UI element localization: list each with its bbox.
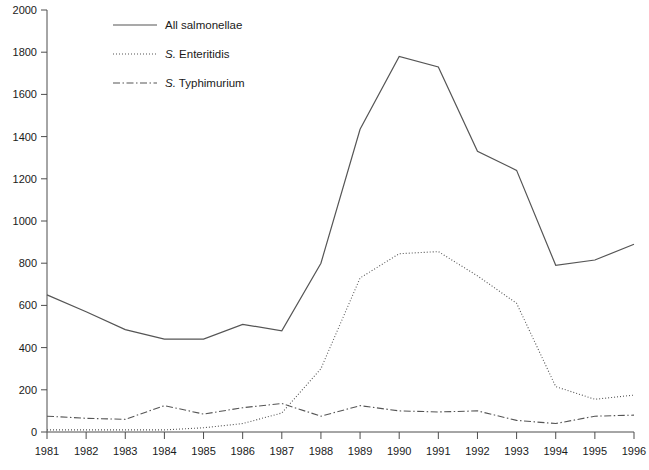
y-tick-label: 0 <box>31 426 37 438</box>
x-tick-label: 1989 <box>348 445 372 457</box>
x-tick-label: 1987 <box>270 445 294 457</box>
chart-legend: All salmonellaeS. EnteritidisS. Typhimur… <box>113 19 245 89</box>
x-tick-label: 1982 <box>74 445 98 457</box>
x-tick-label: 1994 <box>543 445 567 457</box>
y-tick-label: 400 <box>19 342 37 354</box>
y-tick-label: 1000 <box>13 215 37 227</box>
x-tick-label: 1995 <box>583 445 607 457</box>
y-tick-label: 600 <box>19 299 37 311</box>
x-tick-label: 1988 <box>309 445 333 457</box>
legend-label: All salmonellae <box>165 19 242 31</box>
legend-label: S. Typhimurium <box>165 77 245 89</box>
y-axis-label-group: 0200400600800100012001400160018002000 <box>13 4 37 438</box>
x-tick-label: 1990 <box>387 445 411 457</box>
x-tick-label: 1991 <box>426 445 450 457</box>
x-tick-label: 1983 <box>113 445 137 457</box>
y-tick-label: 1200 <box>13 173 37 185</box>
y-tick-label: 1400 <box>13 131 37 143</box>
x-tick-label: 1993 <box>504 445 528 457</box>
x-tick-label: 1992 <box>465 445 489 457</box>
x-tick-label: 1984 <box>152 445 176 457</box>
x-tick-label: 1996 <box>622 445 646 457</box>
x-tick-label: 1986 <box>230 445 254 457</box>
chart-canvas: 0200400600800100012001400160018002000 19… <box>0 0 649 470</box>
series-line-dotted <box>47 252 634 430</box>
y-tick-label: 800 <box>19 257 37 269</box>
x-tick-label: 1985 <box>191 445 215 457</box>
y-tick-label: 200 <box>19 384 37 396</box>
y-tick-label: 2000 <box>13 4 37 16</box>
y-tick-label: 1800 <box>13 46 37 58</box>
series-group <box>47 56 634 429</box>
x-tick-label: 1981 <box>35 445 59 457</box>
y-tick-label: 1600 <box>13 88 37 100</box>
legend-label: S. Enteritidis <box>165 48 230 60</box>
series-line-dash-dot <box>47 404 634 424</box>
x-axis-label-group: 1981198219831984198519861987198819891990… <box>35 445 646 457</box>
line-chart: 0200400600800100012001400160018002000 19… <box>0 0 649 470</box>
y-axis-tick-group <box>41 10 47 432</box>
series-line-solid <box>47 56 634 339</box>
x-axis-tick-group <box>47 432 634 439</box>
